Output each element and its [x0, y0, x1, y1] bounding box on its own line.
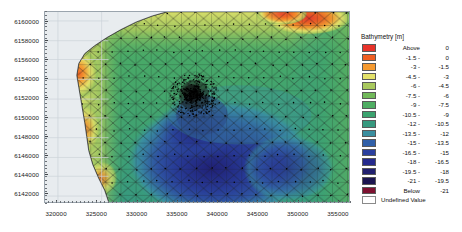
legend-entry[interactable]: -4.5 --3 [358, 72, 462, 82]
mesh-node [179, 168, 181, 170]
legend-entry-upper-bound: -1.5 [423, 63, 449, 70]
mesh-node [218, 76, 220, 78]
mesh-node [89, 64, 91, 66]
y-tick-mark [45, 40, 48, 41]
legend-color-swatch [362, 149, 376, 157]
x-minor-tick [306, 201, 307, 203]
mesh-node [189, 99, 190, 100]
legend-entry[interactable]: -16.5 --15 [358, 148, 462, 158]
mesh-node [198, 111, 199, 112]
mesh-node [270, 168, 272, 170]
x-minor-tick [298, 201, 299, 203]
mesh-node [195, 94, 196, 95]
mesh-node [200, 89, 201, 90]
legend-entry-lower-bound: -21 - [376, 177, 423, 184]
y-minor-tick [45, 149, 47, 150]
mesh-node [190, 96, 191, 97]
legend-entry[interactable]: Above0 [358, 43, 462, 53]
x-minor-tick [96, 201, 97, 203]
mesh-node [104, 115, 106, 117]
legend-entry-upper-bound: -15 [423, 149, 449, 156]
mesh-node [196, 168, 198, 170]
map-plot-area[interactable] [44, 11, 350, 203]
legend-entry[interactable]: -13.5 --12 [358, 129, 462, 139]
mesh-node [156, 102, 158, 104]
x-minor-tick [60, 201, 61, 203]
mesh-node [165, 63, 167, 65]
mesh-node [181, 107, 182, 108]
x-minor-tick [221, 201, 222, 203]
mesh-node [164, 90, 166, 92]
mesh-node [330, 169, 332, 171]
mesh-node [286, 168, 288, 170]
mesh-node [286, 194, 288, 196]
legend-entry[interactable]: -10.5 --9 [358, 110, 462, 120]
legend-entry[interactable]: -19.5 --18 [358, 167, 462, 177]
mesh-node [149, 63, 151, 65]
mesh-node [302, 117, 304, 119]
x-minor-tick [68, 201, 69, 203]
mesh-node [195, 80, 196, 81]
mesh-node [128, 75, 130, 77]
y-minor-tick [45, 19, 47, 20]
mesh-node [207, 102, 208, 103]
legend-entry[interactable]: -1.5 -0 [358, 53, 462, 63]
mesh-node [98, 78, 100, 80]
mesh-node [285, 141, 287, 143]
y-minor-tick [45, 34, 47, 35]
x-minor-tick [104, 201, 105, 203]
legend-entry[interactable]: -3 --1.5 [358, 62, 462, 72]
mesh-node [256, 91, 258, 93]
mesh-node [264, 156, 266, 158]
x-minor-tick [84, 201, 85, 203]
mesh-node [191, 84, 192, 85]
y-minor-tick [45, 184, 47, 185]
x-minor-tick [56, 201, 57, 203]
mesh-node [192, 113, 193, 114]
legend-entry[interactable]: Undefined Value [358, 195, 462, 205]
x-minor-tick [233, 201, 234, 203]
y-minor-tick [45, 61, 47, 62]
legend-entry[interactable]: -15 --13.5 [358, 138, 462, 148]
mesh-node [314, 90, 316, 92]
mesh-node [241, 193, 243, 195]
y-minor-tick [45, 26, 47, 27]
legend-entry[interactable]: -7.5 --6 [358, 91, 462, 101]
mesh-node [197, 105, 198, 106]
legend-entry[interactable]: -21 --19.5 [358, 176, 462, 186]
legend-entry[interactable]: Below-21 [358, 186, 462, 196]
x-minor-tick [52, 201, 53, 203]
mesh-node [202, 79, 203, 80]
y-minor-tick [45, 103, 47, 104]
legend-entry[interactable]: -12 --10.5 [358, 119, 462, 129]
mesh-node [181, 86, 182, 87]
legend-entry-list: Above0-1.5 -0-3 --1.5-4.5 --3-6 --4.5-7.… [358, 43, 462, 205]
y-minor-tick [45, 119, 47, 120]
mesh-node [285, 116, 287, 118]
legend-panel[interactable]: Bathymetry [m] Above0-1.5 -0-3 --1.5-4.5… [358, 33, 462, 205]
mesh-node [280, 75, 282, 77]
mesh-node [82, 77, 84, 79]
x-minor-tick [137, 201, 138, 203]
mesh-node [144, 129, 146, 131]
mesh-node [257, 12, 259, 14]
mesh-node [175, 82, 176, 83]
x-minor-tick [257, 201, 258, 203]
legend-entry[interactable]: -6 --4.5 [358, 81, 462, 91]
mesh-node [249, 24, 251, 26]
mesh-node [316, 63, 318, 65]
mesh-node [195, 38, 197, 40]
legend-color-swatch [362, 73, 376, 81]
legend-entry[interactable]: -18 --16.5 [358, 157, 462, 167]
x-minor-tick [314, 201, 315, 203]
mesh-node [346, 89, 348, 91]
y-minor-tick [45, 53, 47, 54]
legend-entry[interactable]: -9 --7.5 [358, 100, 462, 110]
mesh-node [202, 105, 203, 106]
mesh-node [308, 52, 310, 54]
mesh-node [204, 99, 205, 100]
mesh-node [176, 94, 177, 95]
legend-entry-lower-bound: Above [376, 44, 423, 51]
mesh-node [205, 101, 206, 102]
mesh-node [188, 50, 190, 52]
